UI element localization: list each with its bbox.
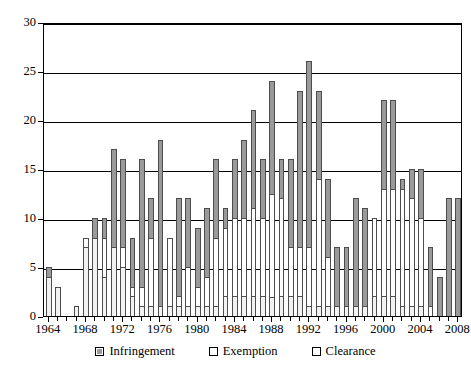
x-axis-tick [66,317,67,321]
bar-segment-clearance [204,306,210,316]
x-axis-tick-label: 1976 [147,323,172,336]
x-axis-tick [429,317,430,321]
bar-segment-clearance [372,296,378,316]
legend-swatch-icon [95,347,104,356]
x-axis-tick [448,317,449,321]
bar-segment-clearance [344,306,350,316]
x-axis-tick [253,317,254,321]
bar-segment-clearance [390,296,396,316]
bar-segment-infringement [251,110,257,208]
bar-segment-clearance [306,306,312,316]
bar-group [288,159,294,316]
bar-group [428,247,434,316]
bar-group [232,159,238,316]
legend-swatch-icon [209,347,218,356]
x-axis-tick [141,317,142,321]
bar-segment-clearance [92,238,98,316]
bar-segment-exemption [213,238,219,307]
bar-segment-clearance [241,296,247,316]
bar-segment-clearance [316,306,322,316]
bar-segment-exemption [288,247,294,296]
bar-segment-infringement [409,169,415,198]
bar-segment-infringement [204,208,210,277]
bar-segment-infringement [195,228,201,287]
bar-group [437,277,443,316]
x-axis-tick [318,317,319,321]
bar-segment-clearance [148,306,154,316]
bar-segment-clearance [213,306,219,316]
bar-segment-clearance [74,306,80,316]
bar-segment-exemption [176,296,182,306]
x-axis-tick [401,317,402,321]
bar-segment-clearance [362,306,368,316]
x-axis-tick [243,317,244,321]
bar-segment-infringement [158,140,164,307]
bar-segment-infringement [260,159,266,218]
bar-segment-infringement [390,100,396,188]
bar-segment-clearance [130,296,136,316]
bar-segment-exemption [102,238,108,277]
x-axis-ticks [43,317,462,322]
bar-segment-clearance [409,306,415,316]
bar-segment-infringement [437,277,443,316]
bar-segment-exemption [400,189,406,307]
bar-segment-clearance [269,297,275,316]
bar-segment-exemption [139,287,145,307]
legend-item-clearance[interactable]: Clearance [312,345,376,358]
x-axis-tick [364,317,365,321]
x-axis-tick-label: 1972 [110,323,135,336]
bar-segment-clearance [279,296,285,316]
bar-segment-clearance [232,296,238,316]
y-axis-tick-label: 15 [6,163,36,176]
x-axis-tick-label: 1996 [333,323,358,336]
x-axis-tick [113,317,114,321]
x-axis-tick [225,317,226,321]
bar-segment-infringement [334,247,340,306]
bar-segment-exemption [390,189,396,297]
bar-segment-infringement [269,81,275,194]
x-axis-tick-label: 1988 [259,323,284,336]
legend-label: Infringement [109,345,174,358]
bars-layer [44,24,461,316]
bar-segment-infringement [306,61,312,247]
x-axis-tick [290,317,291,321]
bar-group [372,218,378,316]
x-axis-tick [439,317,440,321]
y-axis-tick-label: 5 [6,261,36,274]
bar-group [400,179,406,316]
x-axis-tick-label: 2004 [408,323,433,336]
bar-group [83,238,89,316]
bar-segment-infringement [288,159,294,247]
y-axis-tick-label: 25 [6,65,36,78]
x-axis-tick [169,317,170,321]
bar-group [167,238,173,316]
x-axis-tick [215,317,216,321]
legend-swatch-icon [312,347,321,356]
bar-group [111,149,117,316]
bar-segment-infringement [130,238,136,287]
legend-item-exemption[interactable]: Exemption [209,345,278,358]
x-axis-tick [411,317,412,321]
bar-segment-infringement [362,208,368,306]
x-axis-labels: 1964196819721976198019841988199219962000… [0,323,471,339]
bar-group [418,169,424,316]
bar-group [409,169,415,316]
bar-segment-exemption [372,218,378,296]
bar-segment-infringement [139,159,145,286]
x-axis-tick [76,317,77,321]
x-axis-tick [131,317,132,321]
legend-item-infringement[interactable]: Infringement [95,345,174,358]
bar-group [306,61,312,316]
bar-segment-clearance [251,296,257,316]
bar-segment-infringement [297,91,303,248]
bar-group [297,91,303,316]
bar-segment-infringement [381,100,387,188]
bar-group [390,100,396,316]
bar-group [455,198,461,316]
x-axis-tick [57,317,58,321]
bar-group [316,91,322,316]
bar-group [213,159,219,316]
bar-group [195,228,201,316]
x-axis-tick [94,317,95,321]
bar-segment-infringement [325,179,331,257]
